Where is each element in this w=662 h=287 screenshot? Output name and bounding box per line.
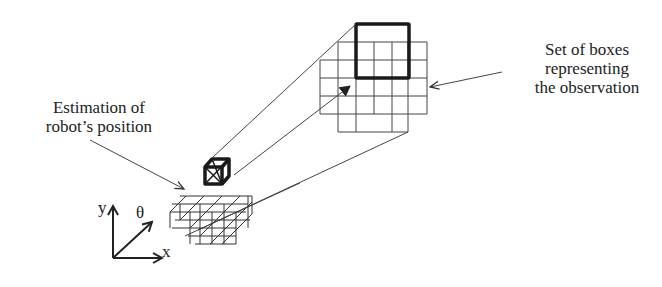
observation-grid	[320, 42, 427, 132]
theta-axis	[113, 222, 152, 258]
observation-label: Set of boxes representing the observatio…	[516, 40, 658, 97]
estimation-label-line1: Estimation of	[24, 98, 174, 117]
observation-label-line1: Set of boxes	[516, 40, 658, 59]
estimation-cube	[205, 159, 229, 184]
y-axis-label: y	[98, 198, 107, 218]
observation-label-line2: representing	[516, 59, 658, 78]
estimation-3d-grid	[170, 196, 252, 244]
observation-label-line3: the observation	[516, 78, 658, 97]
observation-highlight-box	[356, 24, 409, 78]
estimation-label: Estimation of robot’s position	[24, 98, 174, 136]
x-axis-label: x	[162, 242, 171, 262]
estimation-pointer-arrow	[90, 140, 184, 189]
observation-pointer-arrow	[430, 72, 502, 87]
theta-axis-label: θ	[136, 203, 144, 223]
estimation-label-line2: robot’s position	[24, 117, 174, 136]
